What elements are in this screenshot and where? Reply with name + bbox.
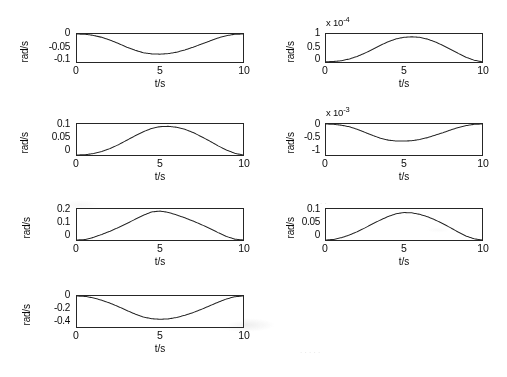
panel-2-xlabel: t/s [384, 78, 424, 89]
panel-2-ytick-0: 1 [290, 27, 320, 38]
panel-5-xlabel: t/s [140, 256, 180, 267]
panel-1-xtick-2: 10 [233, 64, 255, 76]
panel-5-ytick-1: 0.1 [34, 216, 70, 227]
panel-4-xlabel: t/s [384, 171, 424, 182]
panel-3-plot-box [76, 123, 244, 156]
panel-6-xtick-2: 10 [472, 242, 494, 254]
panel-3-xtick-2: 10 [233, 157, 255, 169]
panel-2-ytick-1: 0.5 [290, 41, 320, 52]
panel-3-ytick-1: 0.05 [32, 131, 70, 142]
panel-6-xtick-0: 0 [315, 242, 335, 254]
panel-2-plot-box [325, 33, 483, 63]
panel-2-ytick-2: 0 [290, 53, 320, 64]
panel-1-xlabel: t/s [140, 78, 180, 89]
panel-7-ytick-1: -0.2 [34, 302, 70, 313]
subplot-figure: rad/s 0 -0.05 -0.1 0 5 10 t/s x 10-4 rad… [0, 0, 507, 377]
panel-4-ytick-2: -1 [282, 144, 320, 155]
panel-1-xtick-0: 0 [66, 64, 86, 76]
panel-6-xtick-1: 5 [394, 242, 414, 254]
panel-2-xtick-1: 5 [394, 64, 414, 76]
panel-3-curve [77, 124, 243, 155]
panel-5-curve [77, 209, 243, 240]
panel-4-exponent-base: x 10 [326, 107, 343, 118]
panel-3-xtick-1: 5 [150, 157, 170, 169]
panel-7-xtick-0: 0 [66, 329, 86, 341]
panel-6-ytick-0: 0.1 [284, 203, 320, 214]
panel-2-exponent: x 10-4 [326, 15, 349, 28]
panel-4-curve [326, 124, 482, 155]
panel-1-ytick-1: -0.05 [26, 41, 70, 52]
panel-1-plot-box [76, 33, 244, 63]
panel-6-ytick-2: 0 [284, 229, 320, 240]
panel-7-plot-box [76, 295, 244, 328]
panel-7-xlabel: t/s [140, 343, 180, 354]
scan-ghost-text-2: . . [320, 196, 327, 206]
panel-3-ylabel: rad/s [19, 118, 30, 154]
panel-5-xtick-1: 5 [150, 242, 170, 254]
panel-5-ytick-2: 0 [34, 229, 70, 240]
panel-2-exponent-base: x 10 [326, 17, 343, 28]
panel-4-ytick-0: 0 [282, 118, 320, 129]
panel-4-exponent: x 10-3 [326, 105, 349, 118]
panel-1-xtick-1: 5 [150, 64, 170, 76]
scan-ghost-text-1: . . . . . [300, 345, 320, 355]
panel-6-xlabel: t/s [384, 256, 424, 267]
panel-5-xtick-0: 0 [66, 242, 86, 254]
panel-3-xlabel: t/s [140, 171, 180, 182]
panel-2-curve [326, 34, 482, 62]
panel-1-ytick-2: -0.1 [26, 53, 70, 64]
panel-7-ytick-0: 0 [34, 289, 70, 300]
panel-3-ytick-0: 0.1 [32, 118, 70, 129]
panel-7-ylabel: rad/s [21, 290, 32, 326]
panel-4-xtick-0: 0 [315, 157, 335, 169]
panel-6-plot-box [325, 208, 483, 241]
panel-1-ytick-0: 0 [26, 27, 70, 38]
panel-4-plot-box [325, 123, 483, 156]
panel-4-exponent-power: -3 [343, 105, 349, 114]
panel-5-ylabel: rad/s [21, 203, 32, 239]
panel-2-xtick-2: 10 [472, 64, 494, 76]
panel-2-xtick-0: 0 [315, 64, 335, 76]
panel-2-exponent-power: -4 [343, 15, 349, 24]
panel-4-xtick-2: 10 [472, 157, 494, 169]
panel-7-xtick-2: 10 [233, 329, 255, 341]
panel-7-xtick-1: 5 [150, 329, 170, 341]
panel-6-ytick-1: 0.05 [284, 216, 320, 227]
panel-5-ytick-0: 0.2 [34, 203, 70, 214]
panel-3-ytick-2: 0 [32, 144, 70, 155]
panel-3-xtick-0: 0 [66, 157, 86, 169]
panel-5-plot-box [76, 208, 244, 241]
panel-5-xtick-2: 10 [233, 242, 255, 254]
panel-6-curve [326, 209, 482, 240]
panel-7-curve [77, 296, 243, 327]
panel-4-xtick-1: 5 [394, 157, 414, 169]
panel-7-ytick-2: -0.4 [34, 315, 70, 326]
panel-4-ytick-1: -0.5 [282, 131, 320, 142]
panel-1-curve [77, 34, 243, 62]
